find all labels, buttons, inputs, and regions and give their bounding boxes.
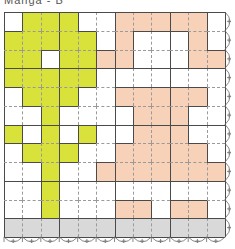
pixel-pattern-grid <box>4 12 225 237</box>
scalloped-edge <box>0 0 235 249</box>
